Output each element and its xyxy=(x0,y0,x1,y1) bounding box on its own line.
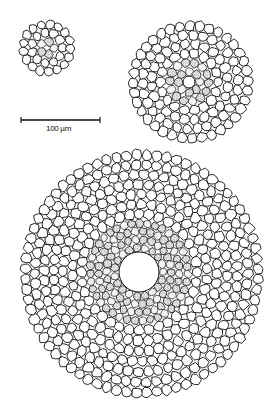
cortex-cell xyxy=(208,363,218,373)
cortex-cell xyxy=(228,241,239,250)
cortex-cell xyxy=(101,371,112,382)
cortex-cell xyxy=(102,154,111,164)
cortex-cell xyxy=(190,174,199,185)
cortex-cell xyxy=(170,102,180,111)
stele-cell xyxy=(184,270,192,278)
cortex-cell xyxy=(166,196,175,206)
cortex-cell xyxy=(21,253,32,262)
cortex-cell xyxy=(241,248,251,258)
cortex-cell xyxy=(141,387,152,397)
cortex-cell xyxy=(148,35,158,45)
stele-cell xyxy=(175,262,183,270)
stele-cell xyxy=(101,234,108,243)
cortex-cell xyxy=(239,214,249,224)
cortex-cell xyxy=(131,160,141,170)
stele-cell xyxy=(131,300,139,308)
cortex-cell xyxy=(141,377,151,387)
cortex-cell xyxy=(143,209,154,220)
cortex-cell xyxy=(221,250,231,261)
cortex-cell xyxy=(53,65,61,74)
stele-cell xyxy=(127,220,136,227)
cortex-cell xyxy=(153,212,163,223)
cortex-cell xyxy=(231,250,242,260)
cortex-cell xyxy=(162,330,172,341)
cortex-cell xyxy=(133,180,143,190)
cortex-cell xyxy=(215,213,226,223)
cortex-cell xyxy=(152,151,162,162)
cortex-cell xyxy=(235,228,245,238)
stele-cell xyxy=(182,256,191,264)
cortex-cell xyxy=(163,318,173,328)
cortex-cell xyxy=(157,353,168,364)
cortex-cell xyxy=(49,58,58,66)
cortex-cell xyxy=(112,152,121,162)
cortex-cell xyxy=(240,56,249,66)
stele-cell xyxy=(141,291,149,299)
cortex-cell xyxy=(199,43,210,53)
cortex-cell xyxy=(191,39,200,50)
cortex-cell xyxy=(201,253,211,263)
cortex-cell xyxy=(23,55,31,65)
cortex-cell xyxy=(111,385,122,396)
cortex-cell xyxy=(192,334,202,344)
cortex-cell xyxy=(149,62,159,72)
cortex-cell xyxy=(123,334,133,345)
central-cavity xyxy=(119,252,159,292)
cortex-cell xyxy=(52,295,62,305)
stele-cell xyxy=(125,238,132,246)
stele-cell xyxy=(176,241,183,249)
cortex-cell xyxy=(139,89,150,99)
cortex-cell xyxy=(219,291,230,301)
cortex-cell xyxy=(144,325,154,335)
stele-cell xyxy=(149,248,156,256)
cortex-cell xyxy=(29,314,41,325)
cortex-cell xyxy=(56,305,67,315)
cortex-cell xyxy=(113,331,122,343)
cortex-cell xyxy=(242,279,252,289)
cortex-cell xyxy=(40,255,49,265)
cortex-cell xyxy=(58,266,67,277)
stele-cell xyxy=(181,286,189,294)
cortex-cell xyxy=(133,368,144,377)
stele-cell xyxy=(116,313,123,321)
cortex-cell xyxy=(51,285,60,294)
cortex-cell xyxy=(113,343,124,353)
cortex-cell xyxy=(101,166,111,175)
cortex-cell xyxy=(202,308,212,318)
cortex-cell xyxy=(233,85,243,96)
stele-cell xyxy=(131,316,139,324)
cortex-cell xyxy=(132,149,142,160)
cortex-cell xyxy=(123,366,133,376)
stele-cell xyxy=(124,229,132,237)
cortex-cell xyxy=(23,295,34,305)
stele-cell xyxy=(134,308,142,316)
cortex-cell xyxy=(73,330,84,340)
cortex-cell xyxy=(248,304,258,315)
stele-cell xyxy=(86,262,94,270)
cortex-cell xyxy=(171,166,182,176)
cortex-cell xyxy=(169,175,179,186)
stele-cell xyxy=(120,305,127,314)
stele-cell xyxy=(168,292,176,299)
cortex-cell xyxy=(189,31,199,41)
cortex-cell xyxy=(33,32,41,41)
cortex-cell xyxy=(251,284,261,294)
stele-cell xyxy=(144,220,151,228)
stele-cell xyxy=(95,263,103,271)
cortex-cell xyxy=(124,324,134,335)
cortex-cell xyxy=(202,275,212,284)
cortex-cell xyxy=(241,289,251,300)
cortex-cell xyxy=(128,78,138,88)
cortex-cell xyxy=(180,49,189,59)
stele-cell xyxy=(87,270,94,278)
stele-cell xyxy=(167,269,175,276)
cortex-cell xyxy=(154,182,165,192)
cortex-cell xyxy=(224,104,235,113)
cortex-cell xyxy=(68,270,78,281)
cortex-cell xyxy=(189,105,200,114)
cortex-cell xyxy=(192,267,202,277)
stele-cell xyxy=(168,305,175,313)
stele-cell xyxy=(188,96,197,105)
cortex-cell xyxy=(49,265,59,275)
cortex-cell xyxy=(172,360,183,370)
